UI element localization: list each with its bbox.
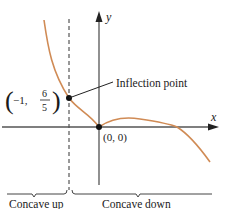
y-axis: y <box>96 10 113 185</box>
concave-down-label: Concave down <box>102 198 171 209</box>
y-axis-arrow-icon <box>96 11 103 22</box>
x-axis-label: x <box>210 110 217 124</box>
concave-up-bracket <box>7 190 67 197</box>
x-axis-arrow-icon <box>208 124 219 131</box>
inflection-coordinates: ( −1, 6 5 ) <box>5 86 61 115</box>
coord-y-numerator: 6 <box>42 88 47 99</box>
coord-x: −1, <box>13 94 28 106</box>
y-axis-label: y <box>105 10 112 24</box>
origin-point-dot <box>96 124 102 130</box>
inflection-leader-line <box>69 82 113 98</box>
concave-down-bracket <box>72 190 212 197</box>
coord-y-denominator: 5 <box>42 102 47 113</box>
close-paren: ) <box>52 86 61 115</box>
origin-label: (0, 0) <box>103 131 127 144</box>
concave-up-label: Concave up <box>9 198 64 209</box>
concavity-diagram: y x Inflection point ( −1, 6 5 ) (0, 0) … <box>0 0 246 209</box>
inflection-point-label: Inflection point <box>116 77 188 90</box>
